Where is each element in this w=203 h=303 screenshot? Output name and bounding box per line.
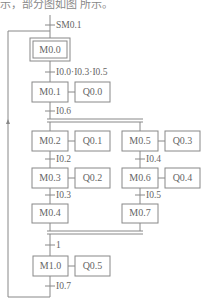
- action-Q0.3: Q0.3: [165, 135, 200, 147]
- step-M0.2: M0.2: [32, 135, 68, 147]
- action-Q0.5: Q0.5: [75, 260, 110, 272]
- step-M0.0: M0.0: [33, 44, 67, 56]
- transition-label: I0.0·I0.3·I0.5: [56, 67, 107, 77]
- step-M0.7: M0.7: [122, 207, 158, 219]
- transition-label: I0.3: [56, 190, 71, 200]
- step-M0.1: M0.1: [32, 86, 68, 98]
- transition-label: I0.2: [56, 154, 71, 164]
- action-Q0.2: Q0.2: [75, 172, 110, 184]
- action-Q0.4: Q0.4: [165, 172, 200, 184]
- transition-label: I0.4: [146, 154, 161, 164]
- transition-label: I0.6: [56, 106, 71, 116]
- step-M0.3: M0.3: [32, 172, 68, 184]
- step-M0.4: M0.4: [32, 207, 68, 219]
- action-Q0.0: Q0.0: [75, 86, 110, 98]
- transition-label: 1: [56, 240, 61, 250]
- transition-label: I0.5: [146, 190, 161, 200]
- step-M0.6: M0.6: [122, 172, 158, 184]
- step-M1.0: M1.0: [33, 260, 68, 272]
- sfc-diagram: [0, 0, 203, 303]
- action-Q0.1: Q0.1: [75, 135, 110, 147]
- transition-label: I0.7: [56, 281, 71, 291]
- step-M0.5: M0.5: [122, 135, 158, 147]
- transition-label: SM0.1: [56, 20, 82, 30]
